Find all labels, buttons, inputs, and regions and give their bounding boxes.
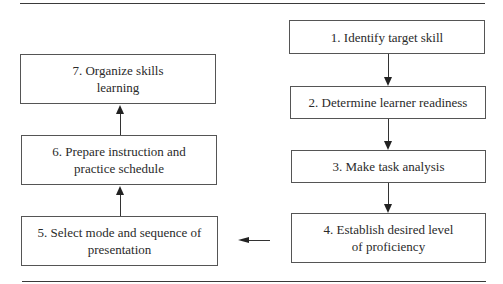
step-1-label: 1. Identify target skill xyxy=(331,29,443,46)
arrow-down-icon xyxy=(384,141,392,150)
step-5-label: 5. Select mode and sequence of presentat… xyxy=(37,224,202,258)
step-7-box: 7. Organize skills learning xyxy=(20,54,216,104)
step-4-label: 4. Establish desired level of proficienc… xyxy=(324,221,454,255)
arrow-6-to-7-line xyxy=(120,112,121,135)
step-5-box: 5. Select mode and sequence of presentat… xyxy=(21,216,218,266)
arrow-down-icon xyxy=(384,77,392,86)
bottom-rule xyxy=(22,281,486,282)
arrow-up-icon xyxy=(116,186,124,195)
step-6-label: 6. Prepare instruction and practice sche… xyxy=(44,143,194,177)
arrow-down-icon xyxy=(384,204,392,213)
arrow-5-to-6-line xyxy=(120,193,121,216)
step-2-label: 2. Determine learner readiness xyxy=(309,94,468,111)
arrow-3-to-4-line xyxy=(388,183,389,205)
arrow-2-to-3-line xyxy=(388,119,389,142)
arrow-left-icon xyxy=(238,237,249,243)
step-2-box: 2. Determine learner readiness xyxy=(290,86,486,119)
step-1-box: 1. Identify target skill xyxy=(289,20,485,54)
step-4-box: 4. Establish desired level of proficienc… xyxy=(291,213,486,263)
top-rule xyxy=(20,3,485,4)
arrow-1-to-2-line xyxy=(388,54,389,78)
step-3-label: 3. Make task analysis xyxy=(333,158,445,175)
step-6-box: 6. Prepare instruction and practice sche… xyxy=(21,135,217,185)
arrow-4-to-5-line xyxy=(248,240,270,241)
arrow-up-icon xyxy=(116,105,124,114)
step-7-label: 7. Organize skills learning xyxy=(68,62,168,96)
step-3-box: 3. Make task analysis xyxy=(291,150,486,183)
